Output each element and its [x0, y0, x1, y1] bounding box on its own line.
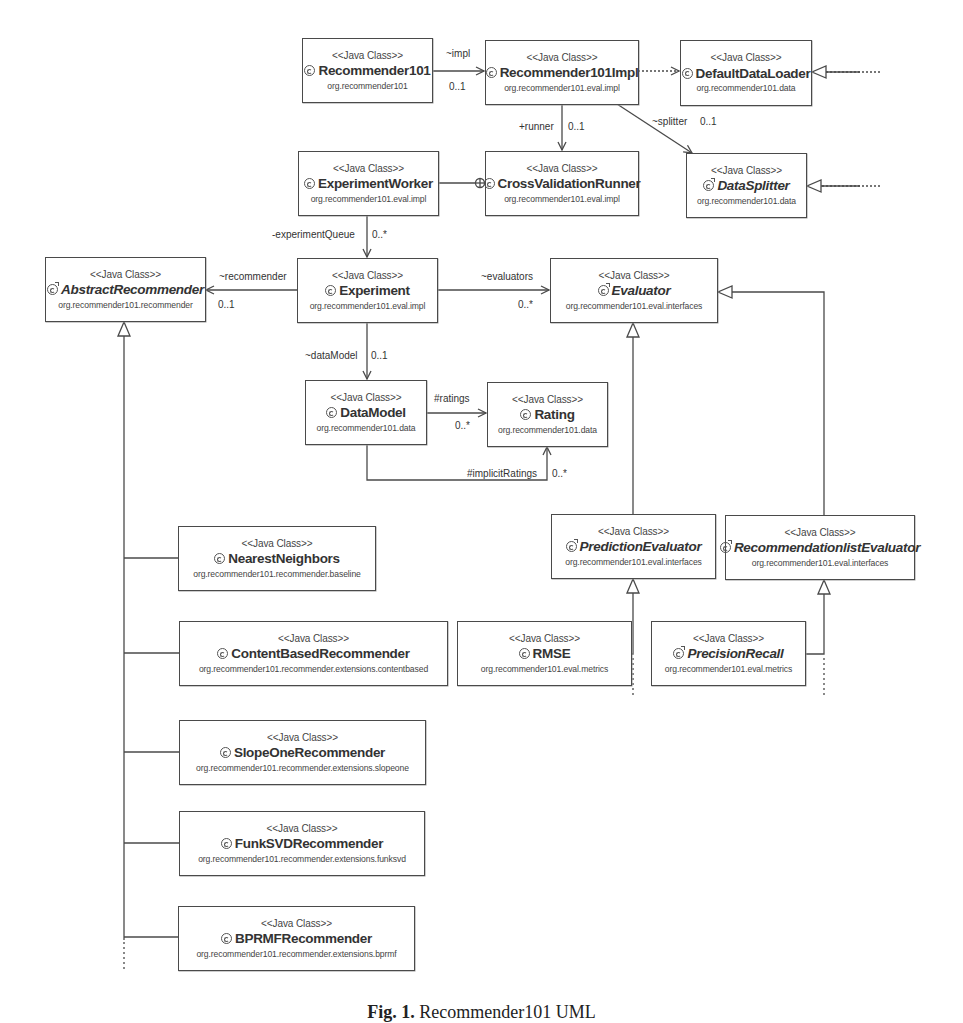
class-contentbasedrecommender[interactable]: <<Java Class>> ContentBasedRecommender o… — [179, 621, 448, 686]
label-implicitratings-mult: 0..* — [552, 468, 567, 479]
stereotype-label: <<Java Class>> — [331, 392, 402, 404]
label-experimentqueue-mult: 0..* — [372, 229, 387, 240]
class-recommender101[interactable]: <<Java Class>> Recommender101 org.recomm… — [302, 38, 433, 103]
class-precisionrecall[interactable]: <<Java Class>> PrecisionRecall org.recom… — [651, 621, 806, 686]
package-name: org.recommender101.eval.interfaces — [566, 302, 703, 312]
assoc-splitter-line — [617, 104, 692, 153]
figure-caption-text: Recommender101 UML — [419, 1002, 595, 1022]
package-name: org.recommender101.data — [697, 197, 796, 207]
label-datamodel-role: ~dataModel — [305, 350, 358, 361]
label-datamodel-mult: 0..1 — [371, 350, 388, 361]
label-experimentqueue-role: -experimentQueue — [272, 229, 355, 240]
class-name: DataModel — [340, 405, 406, 421]
package-name: org.recommender101.eval.impl — [310, 302, 426, 312]
class-recommender101impl[interactable]: <<Java Class>> Recommender101Impl org.re… — [485, 40, 639, 105]
class-slopeonerecommender[interactable]: <<Java Class>> SlopeOneRecommender org.r… — [179, 720, 426, 785]
class-defaultdataloader[interactable]: <<Java Class>> DefaultDataLoader org.rec… — [680, 40, 812, 106]
class-name: PrecisionRecall — [687, 646, 783, 662]
stereotype-label: <<Java Class>> — [267, 823, 338, 835]
stereotype-label: <<Java Class>> — [527, 163, 598, 175]
class-name: CrossValidationRunner — [498, 176, 641, 192]
abstract-class-icon — [703, 180, 714, 191]
label-runner-role: +runner — [519, 121, 554, 132]
package-name: org.recommender101.eval.impl — [504, 195, 620, 205]
class-bprmfrecommender[interactable]: <<Java Class>> BPRMFRecommender org.reco… — [178, 906, 415, 971]
label-implicitratings-role: #implicitRatings — [467, 468, 537, 479]
stereotype-label: <<Java Class>> — [332, 270, 403, 282]
package-name: org.recommender101.recommender — [58, 301, 193, 311]
label-splitter-role: ~splitter — [652, 116, 688, 127]
class-recommendationlistevaluator[interactable]: <<Java Class>> RecommendationlistEvaluat… — [725, 515, 915, 580]
class-evaluator[interactable]: <<Java Class>> Evaluator org.recommender… — [550, 258, 718, 323]
abstract-class-icon — [566, 541, 577, 552]
realization-precisionrecall-line — [805, 580, 824, 654]
label-ratings-role: #ratings — [434, 393, 470, 404]
class-icon — [217, 648, 228, 659]
stereotype-label: <<Java Class>> — [693, 633, 764, 645]
stereotype-label: <<Java Class>> — [711, 165, 782, 177]
stereotype-label: <<Java Class>> — [527, 52, 598, 64]
class-rmse[interactable]: <<Java Class>> RMSE org.recommender101.e… — [457, 621, 632, 686]
class-datasplitter[interactable]: <<Java Class>> DataSplitter org.recommen… — [686, 153, 807, 218]
stereotype-label: <<Java Class>> — [278, 633, 349, 645]
class-name: Recommender101Impl — [500, 65, 639, 81]
class-name: DefaultDataLoader — [696, 66, 811, 82]
class-name: RMSE — [533, 646, 571, 662]
class-experiment[interactable]: <<Java Class>> Experiment org.recommende… — [297, 258, 438, 323]
figure-caption: Fig. 1. Recommender101 UML — [0, 1002, 963, 1023]
class-funksvdrecommender[interactable]: <<Java Class>> FunkSVDRecommender org.re… — [179, 811, 425, 876]
class-icon — [325, 285, 336, 296]
stereotype-label: <<Java Class>> — [267, 732, 338, 744]
label-runner-mult: 0..1 — [568, 121, 585, 132]
label-recommender-role: ~recommender — [219, 271, 287, 282]
class-name: Recommender101 — [318, 63, 430, 79]
class-nearestneighbors[interactable]: <<Java Class>> NearestNeighbors org.reco… — [178, 526, 376, 591]
label-splitter-mult: 0..1 — [700, 116, 717, 127]
class-abstractrecommender[interactable]: <<Java Class>> AbstractRecommender org.r… — [45, 257, 206, 322]
stereotype-label: <<Java Class>> — [785, 527, 856, 539]
label-evaluators-mult: 0..* — [518, 299, 533, 310]
class-icon — [221, 838, 232, 849]
class-experimentworker[interactable]: <<Java Class>> ExperimentWorker org.reco… — [298, 151, 439, 216]
label-impl-mult: 0..1 — [449, 81, 466, 92]
package-name: org.recommender101.recommender.extension… — [199, 665, 428, 675]
stereotype-label: <<Java Class>> — [261, 918, 332, 930]
label-impl-role: ~impl — [446, 48, 470, 59]
abstract-class-icon — [47, 284, 58, 295]
class-icon — [486, 67, 497, 78]
class-datamodel[interactable]: <<Java Class>> DataModel org.recommender… — [305, 380, 427, 445]
class-icon — [519, 648, 530, 659]
package-name: org.recommender101.data — [697, 84, 796, 94]
class-icon — [484, 178, 495, 189]
class-name: PredictionEvaluator — [580, 539, 702, 555]
class-name: AbstractRecommender — [61, 282, 204, 298]
package-name: org.recommender101.eval.interfaces — [565, 558, 702, 568]
stereotype-label: <<Java Class>> — [711, 52, 782, 64]
class-name: ExperimentWorker — [318, 176, 433, 192]
package-name: org.recommender101.eval.impl — [311, 195, 427, 205]
class-name: Experiment — [339, 283, 410, 299]
class-crossvalidationrunner[interactable]: <<Java Class>> CrossValidationRunner org… — [485, 151, 639, 216]
package-name: org.recommender101.recommender.baseline — [193, 570, 361, 580]
label-recommender-mult: 0..1 — [218, 299, 235, 310]
figure-label: Fig. 1. — [367, 1002, 415, 1022]
stereotype-label: <<Java Class>> — [242, 538, 313, 550]
class-name: RecommendationlistEvaluator — [734, 540, 920, 556]
class-icon — [214, 553, 225, 564]
class-name: Evaluator — [612, 283, 671, 299]
package-name: org.recommender101.recommender.extension… — [196, 950, 396, 960]
stereotype-label: <<Java Class>> — [90, 269, 161, 281]
class-name: FunkSVDRecommender — [235, 836, 383, 852]
class-icon — [221, 933, 232, 944]
class-name: SlopeOneRecommender — [234, 745, 385, 761]
class-rating[interactable]: <<Java Class>> Rating org.recommender101… — [487, 382, 608, 447]
package-name: org.recommender101 — [327, 82, 407, 92]
package-name: org.recommender101.recommender.extension… — [198, 855, 406, 865]
class-name: Rating — [534, 407, 574, 423]
stereotype-label: <<Java Class>> — [599, 270, 670, 282]
class-predictionevaluator[interactable]: <<Java Class>> PredictionEvaluator org.r… — [551, 514, 716, 579]
abstract-class-icon — [598, 285, 609, 296]
class-icon — [520, 409, 531, 420]
